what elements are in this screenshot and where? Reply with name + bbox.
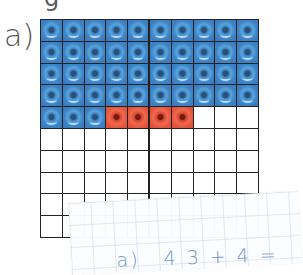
grid-cell-blue-counter — [194, 20, 216, 42]
grid-cell-blue-counter — [172, 85, 194, 107]
grid-cell-empty — [128, 129, 150, 151]
grid-cell-empty — [106, 173, 128, 195]
grid-cell-empty — [237, 107, 259, 129]
grid-cell-blue-counter — [63, 107, 85, 129]
answer-note-text: a)43+4= — [99, 221, 287, 271]
grid-cell-red-counter — [128, 107, 150, 129]
grid-cell-blue-counter — [106, 20, 128, 42]
grid-cell-blue-counter — [41, 42, 63, 64]
grid-cell-empty — [194, 173, 216, 195]
grid-cell-blue-counter — [85, 42, 107, 64]
grid-cell-blue-counter — [106, 64, 128, 86]
grid-cell-empty — [150, 129, 172, 151]
grid-cell-red-counter — [106, 107, 128, 129]
grid-cell-blue-counter — [215, 20, 237, 42]
grid-cell-blue-counter — [150, 42, 172, 64]
grid-cell-blue-counter — [237, 20, 259, 42]
grid-cell-blue-counter — [172, 20, 194, 42]
grid-cell-blue-counter — [41, 85, 63, 107]
grid-cell-blue-counter — [215, 64, 237, 86]
grid-cell-empty — [172, 173, 194, 195]
grid-cell-blue-counter — [85, 85, 107, 107]
grid-cell-blue-counter — [85, 64, 107, 86]
grid-cell-blue-counter — [194, 42, 216, 64]
grid-cell-blue-counter — [63, 42, 85, 64]
grid-cell-blue-counter — [63, 64, 85, 86]
grid-cell-empty — [237, 129, 259, 151]
grid-cell-blue-counter — [237, 42, 259, 64]
grid-cell-empty — [128, 173, 150, 195]
grid-cell-blue-counter — [41, 20, 63, 42]
grid-cell-blue-counter — [194, 85, 216, 107]
grid-cell-blue-counter — [128, 64, 150, 86]
grid-cell-empty — [41, 173, 63, 195]
grid-cell-empty — [150, 173, 172, 195]
grid-cell-blue-counter — [106, 85, 128, 107]
grid-cell-empty — [215, 151, 237, 173]
grid-cell-empty — [237, 151, 259, 173]
grid-cell-empty — [128, 151, 150, 173]
grid-cell-empty — [215, 173, 237, 195]
grid-cell-blue-counter — [63, 85, 85, 107]
grid-cell-empty — [172, 151, 194, 173]
grid-cell-empty — [85, 129, 107, 151]
grid-cell-empty — [41, 194, 63, 216]
exercise-label: a) — [4, 18, 34, 53]
grid-cell-empty — [150, 151, 172, 173]
grid-cell-empty — [63, 151, 85, 173]
grid-cell-empty — [237, 173, 259, 195]
grid-cell-empty — [194, 107, 216, 129]
grid-cell-blue-counter — [215, 85, 237, 107]
grid-cell-empty — [172, 129, 194, 151]
grid-cell-blue-counter — [150, 85, 172, 107]
note-token: = — [259, 243, 278, 266]
grid-cell-red-counter — [172, 107, 194, 129]
grid-cell-empty — [41, 129, 63, 151]
grid-cell-blue-counter — [41, 64, 63, 86]
grid-cell-empty — [41, 151, 63, 173]
grid-cell-blue-counter — [172, 42, 194, 64]
grid-cell-blue-counter — [128, 85, 150, 107]
grid-cell-empty — [63, 173, 85, 195]
grid-cell-empty — [194, 129, 216, 151]
note-token: + — [209, 245, 228, 268]
grid-cell-empty — [85, 151, 107, 173]
grid-cell-blue-counter — [85, 107, 107, 129]
grid-cell-empty — [215, 107, 237, 129]
grid-cell-blue-counter — [41, 107, 63, 129]
grid-cell-blue-counter — [237, 64, 259, 86]
grid-cell-blue-counter — [150, 64, 172, 86]
grid-cell-blue-counter — [215, 42, 237, 64]
note-token: 4 — [163, 247, 178, 269]
grid-cell-empty — [63, 129, 85, 151]
grid-cell-blue-counter — [237, 85, 259, 107]
grid-cell-empty — [106, 151, 128, 173]
grid-cell-blue-counter — [63, 20, 85, 42]
grid-cell-red-counter — [150, 107, 172, 129]
note-token: 3 — [186, 246, 201, 268]
grid-cell-blue-counter — [194, 64, 216, 86]
grid-cell-blue-counter — [128, 20, 150, 42]
grid-cell-empty — [194, 151, 216, 173]
grid-cell-blue-counter — [128, 42, 150, 64]
grid-cell-blue-counter — [172, 64, 194, 86]
grid-cell-empty — [41, 216, 63, 238]
note-label: a) — [116, 248, 140, 271]
previous-line-fragment: g — [44, 0, 65, 12]
grid-cell-empty — [106, 129, 128, 151]
grid-cell-empty — [85, 173, 107, 195]
grid-cell-blue-counter — [150, 20, 172, 42]
grid-cell-blue-counter — [85, 20, 107, 42]
grid-cell-blue-counter — [106, 42, 128, 64]
note-token: 4 — [236, 244, 251, 266]
grid-cell-empty — [215, 129, 237, 151]
